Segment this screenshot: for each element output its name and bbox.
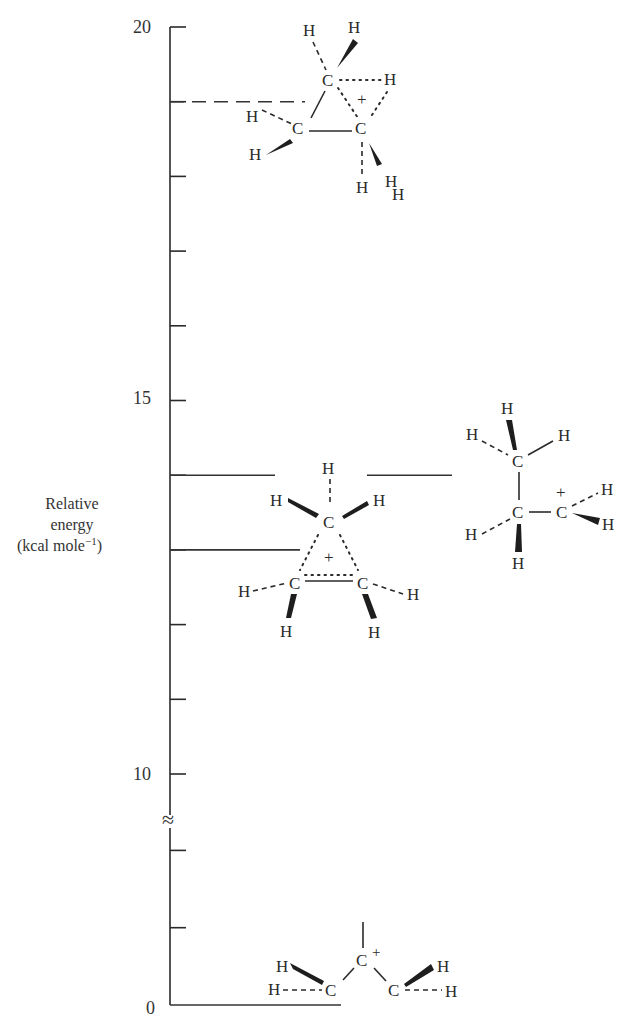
structure-propyl-cation: H H H C C + C H H H H: [465, 399, 614, 573]
energy-levels: [170, 102, 452, 1005]
atom-h: H: [384, 70, 396, 89]
axis-title: Relative energy (kcal mole−1): [17, 495, 102, 555]
atom-c: C: [388, 981, 399, 1000]
charge-plus: +: [357, 90, 367, 109]
wedge-bond: [506, 420, 517, 450]
structure-allyl-cation: C + H H C C H H: [268, 922, 457, 1001]
atom-h: H: [501, 399, 513, 418]
dashed-bond: [373, 584, 403, 594]
wedge-bond: [337, 39, 358, 68]
energy-diagram: ≈ 20 15 10 0 Relative energy (kcal mole−…: [0, 0, 630, 1036]
wedge-bond: [369, 143, 382, 166]
wedge-bond: [404, 964, 434, 987]
atom-h: H: [392, 185, 404, 204]
tick-label-10: 10: [133, 764, 151, 784]
atom-c: C: [356, 951, 367, 970]
atom-h: H: [407, 585, 419, 604]
atom-h: H: [466, 425, 478, 444]
atom-h: H: [512, 554, 524, 573]
atom-h: H: [238, 582, 250, 601]
atom-h: H: [356, 178, 368, 197]
atom-h: H: [249, 145, 261, 164]
wedge-bond: [286, 594, 297, 618]
bond: [374, 968, 386, 981]
atom-h: H: [465, 525, 477, 544]
wedge-bond: [572, 513, 600, 525]
atom-c: C: [355, 119, 366, 138]
wedge-bond: [266, 139, 293, 155]
dashed-bond: [313, 42, 326, 70]
axis-title-line2: energy: [50, 516, 93, 534]
atom-c: C: [289, 574, 300, 593]
atom-h: H: [445, 982, 457, 1001]
dotted-bond: [338, 88, 358, 118]
atom-c: C: [325, 981, 336, 1000]
atom-h: H: [303, 21, 315, 40]
atom-h: H: [558, 426, 570, 445]
wedge-bond: [342, 501, 369, 519]
atom-c: C: [512, 503, 523, 522]
axis-ticks: [170, 27, 186, 928]
dashed-bond: [572, 493, 598, 506]
dashed-bond: [262, 110, 292, 124]
atom-c: C: [357, 574, 368, 593]
tick-label-15: 15: [133, 388, 151, 408]
atom-c: C: [322, 71, 333, 90]
atom-c: C: [512, 452, 523, 471]
dashed-bond: [482, 441, 508, 455]
axis-title-line3: (kcal mole−1): [17, 535, 102, 555]
charge-plus: +: [324, 548, 334, 567]
atom-h: H: [276, 957, 288, 976]
atom-h: H: [373, 491, 385, 510]
dashed-bond: [253, 583, 287, 591]
atom-h: H: [348, 18, 360, 37]
wedge-bond: [288, 498, 319, 518]
wedge-bond: [515, 524, 522, 552]
atom-h: H: [246, 107, 258, 126]
tick-label-20: 20: [133, 17, 151, 37]
atom-h: H: [322, 459, 334, 478]
y-axis: ≈ 20 15 10 0: [133, 17, 186, 1018]
wedge-bond: [362, 594, 377, 619]
atom-c: C: [323, 513, 334, 532]
atom-h: H: [268, 980, 280, 999]
dotted-bond: [370, 92, 387, 118]
atom-h: H: [368, 623, 380, 642]
atom-h: H: [280, 622, 292, 641]
bond: [343, 968, 354, 980]
bond: [311, 91, 325, 118]
structure-protonated-cyclopropane-top: H H C H + H C C H H H H: [246, 18, 404, 204]
bond: [528, 441, 553, 455]
atom-h: H: [437, 957, 449, 976]
charge-plus: +: [556, 483, 566, 502]
atom-c: C: [556, 503, 567, 522]
dashed-bond: [482, 519, 510, 534]
atom-h: H: [270, 491, 282, 510]
charge-plus: +: [372, 944, 380, 960]
dotted-bond: [340, 535, 358, 570]
axis-break-marker: ≈: [162, 807, 174, 832]
wedge-bond: [290, 963, 324, 985]
atom-h: H: [601, 480, 613, 499]
atom-h: H: [602, 515, 614, 534]
tick-label-0: 0: [146, 998, 155, 1018]
dotted-bond: [300, 535, 318, 570]
axis-title-line1: Relative: [45, 495, 98, 512]
atom-c: C: [292, 119, 303, 138]
